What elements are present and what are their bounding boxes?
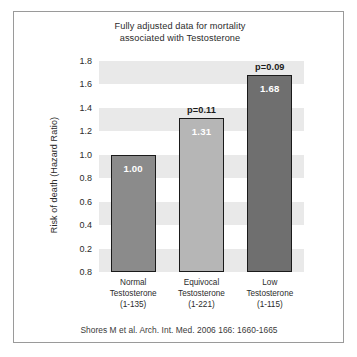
- y-axis-tick-label: 1.4: [79, 103, 92, 113]
- chart-title-line-1: Fully adjusted data for mortality: [40, 20, 320, 32]
- x-axis-category-line-3: (1-115): [232, 299, 308, 310]
- y-axis-title: Risk of death (Hazard Ratio): [49, 75, 59, 275]
- x-axis-category-line-2: Testosterone: [95, 288, 171, 299]
- x-axis-category-line-1: Normal: [95, 277, 171, 288]
- x-axis-category-line-1: Equivocal: [163, 277, 239, 288]
- bar-pvalue-label: p=0.11: [165, 105, 238, 115]
- y-axis-tick-label: 0.2: [79, 244, 92, 254]
- bar-pvalue-label: p=0.09: [233, 62, 306, 72]
- x-axis-category-line-3: (1-135): [95, 299, 171, 310]
- x-axis-category-line-2: Testosterone: [232, 288, 308, 299]
- bar-value-label: 1.31: [180, 126, 223, 137]
- x-axis-category-line-3: (1-221): [163, 299, 239, 310]
- chart-figure: Fully adjusted data for mortality associ…: [0, 0, 357, 357]
- source-citation: Shores M et al. Arch. Int. Med. 2006 166…: [20, 325, 338, 335]
- x-axis-category-label: EquivocalTestosterone(1-221): [163, 277, 239, 311]
- bar-value-label: 1.68: [248, 83, 291, 94]
- bar-series: 1.001.31p=0.111.68p=0.09: [99, 61, 304, 272]
- y-axis-tick-label: 1.6: [79, 79, 92, 89]
- bar-slot: 1.31p=0.11: [179, 61, 224, 272]
- bar-value-label: 1.00: [112, 163, 155, 174]
- x-axis-category-label: LowTestosterone(1-115): [232, 277, 308, 311]
- x-axis-category-line-2: Testosterone: [163, 288, 239, 299]
- y-axis-tick-label: 0.6: [79, 197, 92, 207]
- bar-slot: 1.68p=0.09: [247, 61, 292, 272]
- bar-slot: 1.00: [111, 61, 156, 272]
- chart-title-line-2: associated with Testosterone: [40, 32, 320, 44]
- y-axis-tick-label: 0.8: [79, 173, 92, 183]
- bar[interactable]: 1.31: [179, 118, 224, 272]
- y-axis-tick-label: 1.8: [79, 56, 92, 66]
- x-axis-category-label: NormalTestosterone(1-135): [95, 277, 171, 311]
- y-axis-tick-label: 0.8: [79, 267, 92, 277]
- y-axis-tick-label: 1.2: [79, 126, 92, 136]
- y-axis-tick-label: 0.4: [79, 220, 92, 230]
- y-axis-tick-label: 1.0: [79, 150, 92, 160]
- plot-area: 1.81.61.41.21.00.80.60.40.20.8 1.001.31p…: [99, 61, 304, 272]
- x-axis-category-line-1: Low: [232, 277, 308, 288]
- bar[interactable]: 1.00: [111, 155, 156, 272]
- bar[interactable]: 1.68: [247, 75, 292, 272]
- chart-title: Fully adjusted data for mortality associ…: [40, 20, 320, 44]
- x-axis-labels: NormalTestosterone(1-135)EquivocalTestos…: [99, 277, 304, 321]
